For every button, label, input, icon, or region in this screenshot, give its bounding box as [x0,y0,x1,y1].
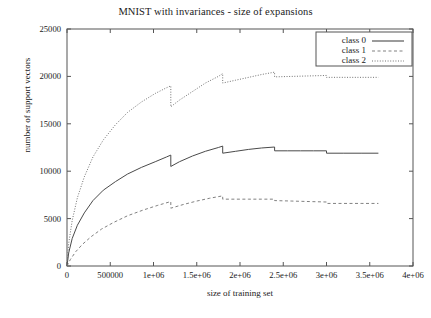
y-tick-label: 25000 [40,24,61,34]
x-axis-label: size of training set [67,288,413,298]
x-tick-label: 1e+06 [143,270,165,280]
legend-label-2: class 2 [342,55,366,65]
series-line-1 [67,196,378,266]
legend-label-0: class 0 [342,35,367,45]
x-axis-ticks: 05000001e+061.5e+062e+062.5e+063e+063.5e… [65,29,425,280]
y-tick-label: 10000 [40,166,61,176]
chart-root: MNIST with invariances - size of expansi… [0,0,431,318]
y-tick-label: 20000 [40,71,61,81]
series-line-2 [67,72,378,266]
y-axis-label: number of support vectors [22,25,32,185]
x-tick-label: 4e+06 [402,270,424,280]
data-series-group [67,72,378,266]
x-tick-label: 500000 [97,270,123,280]
chart-plot: 05000001e+061.5e+062e+062.5e+063e+063.5e… [0,0,431,318]
y-tick-label: 15000 [40,119,61,129]
x-tick-label: 0 [65,270,69,280]
legend-label-1: class 1 [342,45,366,55]
x-tick-label: 3e+06 [316,270,338,280]
legend: class 0class 1class 2 [316,32,412,66]
x-tick-label: 1.5e+06 [183,270,212,280]
y-tick-label: 5000 [44,214,61,224]
x-tick-label: 2e+06 [229,270,251,280]
x-tick-label: 3.5e+06 [356,270,385,280]
series-line-0 [67,146,378,266]
y-tick-label: 0 [57,261,61,271]
x-tick-label: 2.5e+06 [269,270,298,280]
